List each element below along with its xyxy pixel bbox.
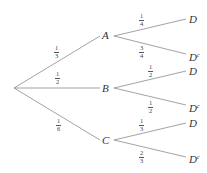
edge-a-d	[114, 19, 186, 36]
node-c: C	[102, 135, 109, 146]
prob-c-dc: 23	[139, 150, 144, 165]
leaf-b-dc: Dc	[189, 101, 200, 114]
leaf-c-d: D	[189, 118, 197, 129]
leaf-a-dc: Dc	[189, 50, 200, 63]
edge-a-dc	[114, 36, 186, 54]
node-a: A	[102, 30, 109, 41]
edge-c-d	[114, 123, 186, 140]
leaf-b-d: D	[189, 66, 197, 77]
prob-b-d: 12	[148, 64, 153, 79]
edge-c-dc	[114, 140, 186, 157]
leaf-a-d: D	[189, 14, 197, 25]
node-b: B	[102, 83, 109, 94]
prob-root-c: 16	[56, 118, 61, 133]
prob-root-b: 12	[55, 71, 60, 86]
prob-a-dc: 34	[139, 45, 144, 60]
leaf-c-dc: Dc	[189, 152, 200, 165]
prob-c-d: 13	[139, 118, 144, 133]
prob-root-a: 13	[54, 45, 59, 60]
prob-b-dc: 12	[148, 100, 153, 115]
prob-a-d: 14	[139, 13, 144, 28]
